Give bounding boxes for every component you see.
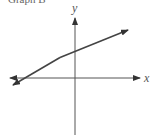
x-axis-label: x — [143, 71, 150, 85]
plotted-line — [60, 30, 128, 58]
graph: y x — [0, 0, 151, 135]
y-axis-label: y — [71, 1, 78, 15]
plotted-line-neg — [13, 58, 60, 86]
